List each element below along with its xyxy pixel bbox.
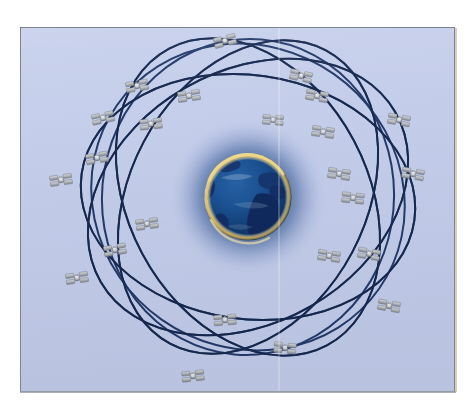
plate-bottom-shadow [20, 391, 456, 393]
plate-right-shadow [455, 28, 457, 392]
figure-root: Illustration of a global navigation sate… [0, 0, 474, 411]
constellation-canvas [21, 28, 454, 391]
constellation-illustration [20, 27, 455, 392]
